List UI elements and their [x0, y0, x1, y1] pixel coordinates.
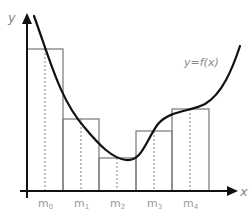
midpoint-label-4: m4	[183, 197, 199, 211]
midpoint-label-1: m1	[74, 197, 89, 211]
midpoint-label-2: m2	[110, 197, 125, 211]
midpoint-tick-labels: m0m1m2m3m4	[38, 197, 199, 211]
y-axis-label: y	[7, 10, 16, 25]
riemann-sum-diagram: y x y=f(x) m0m1m2m3m4	[0, 0, 252, 215]
midpoint-label-0: m0	[38, 197, 53, 211]
y-axis-arrow-icon	[22, 13, 32, 24]
midpoint-dotted-lines	[45, 49, 190, 191]
x-axis-label: x	[239, 184, 248, 199]
x-axis-arrow-icon	[227, 186, 238, 196]
midpoint-label-3: m3	[147, 197, 162, 211]
curve-label: y=f(x)	[183, 56, 219, 69]
